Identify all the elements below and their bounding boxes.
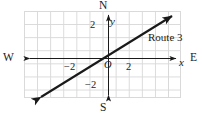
- y-tick-label-positive-2: 2: [90, 20, 95, 31]
- origin-label: O: [104, 60, 112, 71]
- compass-label-north: N: [99, 0, 107, 12]
- x-tick-label-positive-2: 2: [126, 62, 131, 73]
- y-axis-label: y: [110, 16, 115, 27]
- x-axis-label: x: [179, 57, 184, 68]
- compass-label-west: W: [3, 52, 14, 64]
- route-3-label: Route 3: [148, 32, 183, 43]
- axes-and-line-graphic: [0, 0, 202, 116]
- route-3-line: [41, 16, 172, 97]
- compass-label-south: S: [100, 102, 106, 114]
- compass-label-east: E: [190, 52, 197, 64]
- coordinate-grid-figure: N S W E y x 2 −2 −2 2 O Route 3: [0, 0, 202, 116]
- y-tick-label-negative-2: −2: [85, 80, 96, 91]
- x-tick-label-negative-2: −2: [64, 62, 75, 73]
